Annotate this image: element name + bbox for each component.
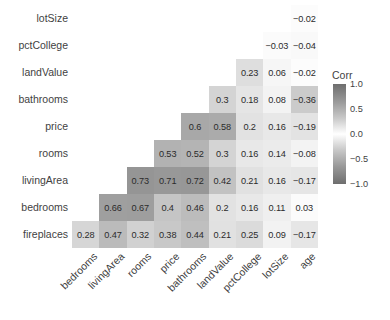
heatmap-cell-empty — [72, 86, 99, 113]
heatmap-cell-empty — [99, 86, 126, 113]
y-axis-label: landValue — [0, 59, 68, 86]
heatmap-cell: −0.08 — [291, 140, 318, 167]
heatmap-cell-empty — [209, 32, 236, 59]
legend-tick-labels: 1.00.50.0−0.5−1.0 — [350, 84, 386, 184]
y-axis-labels: lotSizepctCollegelandValuebathroomsprice… — [0, 5, 68, 248]
heatmap-cell: 0.06 — [263, 59, 290, 86]
x-axis-labels: bedroomslivingArearoomspricebathroomslan… — [72, 250, 318, 320]
heatmap-cell-empty — [127, 113, 154, 140]
heatmap-cell: 0.16 — [263, 167, 290, 194]
y-axis-label: fireplaces — [0, 221, 68, 248]
heatmap-cell: 0.08 — [263, 86, 290, 113]
heatmap-cell: 0.72 — [181, 167, 208, 194]
heatmap-row: −0.03−0.04 — [72, 32, 318, 59]
heatmap-cell-empty — [72, 194, 99, 221]
heatmap-cell: 0.23 — [236, 59, 263, 86]
heatmap-cell-empty — [181, 32, 208, 59]
legend-tick: 0.5 — [350, 104, 363, 114]
y-axis-label: pctCollege — [0, 32, 68, 59]
y-axis-label: bathrooms — [0, 86, 68, 113]
heatmap-cell-empty — [72, 5, 99, 32]
y-axis-label: price — [0, 113, 68, 140]
heatmap-cell: −0.36 — [291, 86, 318, 113]
heatmap-cell-empty — [99, 32, 126, 59]
correlation-heatmap: lotSizepctCollegelandValuebathroomsprice… — [0, 0, 390, 320]
heatmap-cell-empty — [99, 140, 126, 167]
legend-tick: −0.5 — [350, 154, 368, 164]
heatmap-cell: 0.73 — [127, 167, 154, 194]
heatmap-row: −0.02 — [72, 5, 318, 32]
heatmap-cell-empty — [72, 59, 99, 86]
heatmap-cell-empty — [154, 59, 181, 86]
heatmap-row: 0.660.670.40.460.20.160.110.03 — [72, 194, 318, 221]
heatmap-cell: 0.18 — [236, 86, 263, 113]
y-axis-label: lotSize — [0, 5, 68, 32]
legend-tick: 1.0 — [350, 79, 363, 89]
legend-body: 1.00.50.0−0.5−1.0 — [332, 84, 390, 184]
heatmap-cell-empty — [127, 32, 154, 59]
heatmap-cell: 0.46 — [181, 194, 208, 221]
heatmap-cell-empty — [127, 86, 154, 113]
heatmap-cell-empty — [127, 5, 154, 32]
heatmap-cell: 0.71 — [154, 167, 181, 194]
heatmap-cell-empty — [154, 32, 181, 59]
heatmap-row: 0.30.180.08−0.36 — [72, 86, 318, 113]
heatmap-cell: 0.2 — [236, 113, 263, 140]
heatmap-row: 0.230.06−0.02 — [72, 59, 318, 86]
y-axis-label: livingArea — [0, 167, 68, 194]
heatmap-row: 0.60.580.20.16−0.19 — [72, 113, 318, 140]
heatmap-cell: 0.3 — [209, 140, 236, 167]
heatmap-cell: 0.52 — [181, 140, 208, 167]
legend-colorbar — [333, 84, 346, 184]
heatmap-cell-empty — [209, 59, 236, 86]
y-axis-label: bedrooms — [0, 194, 68, 221]
heatmap-cell-empty — [72, 32, 99, 59]
y-axis-label: rooms — [0, 140, 68, 167]
heatmap-grid: −0.02−0.03−0.040.230.06−0.020.30.180.08−… — [72, 5, 318, 248]
heatmap-cell: −0.19 — [291, 113, 318, 140]
legend: Corr 1.00.50.0−0.5−1.0 — [332, 70, 390, 184]
legend-tick: 0.0 — [350, 129, 363, 139]
heatmap-cell-empty — [99, 5, 126, 32]
heatmap-cell: −0.02 — [291, 5, 318, 32]
heatmap-cell-empty — [181, 5, 208, 32]
heatmap-cell-empty — [236, 5, 263, 32]
heatmap-cell: 0.3 — [209, 86, 236, 113]
heatmap-cell: 0.16 — [263, 113, 290, 140]
heatmap-cell: −0.17 — [291, 167, 318, 194]
heatmap-cell-empty — [154, 5, 181, 32]
heatmap-row: 0.730.710.720.420.210.16−0.17 — [72, 167, 318, 194]
heatmap-cell: 0.03 — [291, 194, 318, 221]
heatmap-cell: 0.6 — [181, 113, 208, 140]
heatmap-cell: 0.14 — [263, 140, 290, 167]
heatmap-cell-empty — [154, 113, 181, 140]
heatmap-cell: −0.03 — [263, 32, 290, 59]
heatmap-cell: 0.16 — [236, 140, 263, 167]
heatmap-cell-empty — [72, 167, 99, 194]
heatmap-cell-empty — [72, 113, 99, 140]
heatmap-cell-empty — [72, 140, 99, 167]
heatmap-cell-empty — [263, 5, 290, 32]
heatmap-cell-empty — [127, 140, 154, 167]
heatmap-cell: 0.21 — [236, 167, 263, 194]
heatmap-cell-empty — [99, 113, 126, 140]
legend-tick: −1.0 — [350, 179, 368, 189]
heatmap-cell: 0.4 — [154, 194, 181, 221]
heatmap-cell-empty — [181, 86, 208, 113]
heatmap-cell-empty — [99, 167, 126, 194]
heatmap-cell-empty — [99, 59, 126, 86]
heatmap-cell: 0.53 — [154, 140, 181, 167]
x-axis-label-text: age — [297, 250, 318, 271]
heatmap-cell-empty — [181, 59, 208, 86]
heatmap-cell: −0.02 — [291, 59, 318, 86]
heatmap-cell: −0.04 — [291, 32, 318, 59]
heatmap-cell: 0.58 — [209, 113, 236, 140]
heatmap-cell-empty — [209, 5, 236, 32]
heatmap-cell-empty — [127, 59, 154, 86]
heatmap-cell-empty — [236, 32, 263, 59]
heatmap-row: 0.530.520.30.160.14−0.08 — [72, 140, 318, 167]
heatmap-cell: 0.42 — [209, 167, 236, 194]
heatmap-cell-empty — [154, 86, 181, 113]
